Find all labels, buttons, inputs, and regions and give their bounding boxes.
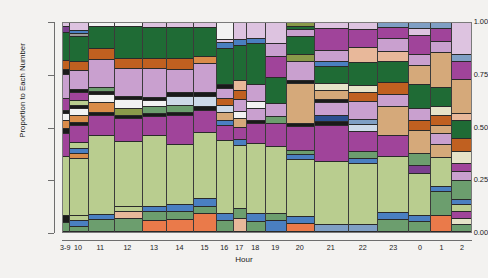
bar-segment <box>70 23 88 31</box>
bar-column[interactable] <box>194 23 217 232</box>
bar-segment <box>287 84 313 124</box>
bar-segment <box>452 164 471 172</box>
bar-segment <box>349 164 378 225</box>
bar-segment <box>431 116 451 126</box>
bar-segment <box>287 37 313 54</box>
bar-segment <box>167 70 192 94</box>
bar-segment <box>63 121 69 129</box>
bar-column[interactable] <box>266 23 287 232</box>
bar-segment <box>194 64 216 94</box>
x-tick-label: 0 <box>418 243 422 252</box>
bar-segment <box>266 214 286 221</box>
x-tick-label: 18 <box>251 243 259 252</box>
bar-segment <box>378 52 408 63</box>
bar-column[interactable] <box>349 23 379 232</box>
bar-column[interactable] <box>315 23 349 232</box>
bar-segment <box>234 23 247 40</box>
bar-segment <box>349 152 378 159</box>
bar-segment <box>452 205 471 212</box>
bar-segment <box>143 69 166 97</box>
bar-segment <box>378 157 408 213</box>
y-axis-title: Proportion to Each Number <box>18 6 27 176</box>
bar-segment <box>194 28 216 58</box>
bar-segment <box>431 29 451 42</box>
bar-segment <box>167 145 192 205</box>
bar-column[interactable] <box>217 23 234 232</box>
bar-segment <box>349 86 378 93</box>
bar-segment <box>63 157 69 216</box>
bar-segment <box>409 174 430 216</box>
bar-segment <box>431 158 451 187</box>
bar-segment <box>234 119 247 128</box>
bar-segment <box>409 36 430 55</box>
bar-segment <box>63 33 69 61</box>
bar-column[interactable] <box>234 23 248 232</box>
bar-segment <box>234 46 247 81</box>
bar-segment <box>115 109 142 116</box>
bar-segment <box>349 63 378 85</box>
bar-segment <box>266 104 286 117</box>
x-tick-label: 14 <box>175 243 183 252</box>
bar-segment <box>378 107 408 137</box>
bar-segment <box>247 222 265 232</box>
bar-column[interactable] <box>89 23 114 232</box>
bar-segment <box>247 44 265 85</box>
bar-column[interactable] <box>378 23 409 232</box>
bar-segment <box>167 116 192 144</box>
bar-column[interactable] <box>115 23 143 232</box>
bar-segment <box>349 125 378 133</box>
bar-column[interactable] <box>287 23 314 232</box>
bar-segment <box>115 219 142 232</box>
x-tick-label: 3-9 <box>60 243 70 252</box>
x-axis-title: Hour <box>0 255 488 264</box>
bar-segment <box>217 113 233 121</box>
bar-column[interactable] <box>63 23 70 232</box>
bar-column[interactable] <box>452 23 471 232</box>
bar-segment <box>63 114 69 121</box>
bar-segment <box>115 59 142 70</box>
bar-segment <box>70 71 88 90</box>
bar-segment <box>194 199 216 207</box>
bar-segment <box>63 216 69 223</box>
bar-segment <box>194 214 216 232</box>
bar-segment <box>315 51 348 63</box>
bar-segment <box>378 213 408 220</box>
bar-segment <box>349 132 378 152</box>
bar-segment <box>63 99 69 111</box>
bar-segment <box>89 220 113 232</box>
bar-column[interactable] <box>247 23 266 232</box>
bar-segment <box>287 127 313 150</box>
bar-segment <box>167 212 192 220</box>
bar-segment <box>115 119 142 142</box>
bar-segment <box>409 85 430 109</box>
bar-segment <box>287 160 313 217</box>
bar-segment <box>315 67 348 85</box>
bar-segment <box>247 102 265 109</box>
bar-segment <box>452 172 471 181</box>
bar-segment <box>167 59 192 70</box>
bar-segment <box>217 89 233 99</box>
bar-segment <box>378 95 408 107</box>
x-tick-label: 19 <box>271 243 279 252</box>
bar-column[interactable] <box>70 23 89 232</box>
bar-segment <box>217 214 233 221</box>
bar-segment <box>143 212 166 221</box>
bar-column[interactable] <box>409 23 431 232</box>
bar-column[interactable] <box>431 23 452 232</box>
bar-segment <box>452 23 471 55</box>
x-tick-label: 16 <box>220 243 228 252</box>
bar-segment <box>431 126 451 135</box>
bar-segment <box>452 121 471 139</box>
bar-column[interactable] <box>167 23 193 232</box>
bar-segment <box>409 66 430 85</box>
bar-segment <box>247 109 265 121</box>
bar-segment <box>349 30 378 48</box>
bar-segment <box>217 106 233 113</box>
bar-segment <box>70 126 88 142</box>
bar-segment <box>217 141 233 214</box>
bar-column[interactable] <box>143 23 167 232</box>
bar-segment <box>115 69 142 96</box>
bar-segment <box>266 78 286 104</box>
bar-segment <box>70 93 88 102</box>
x-tick-label: 2 <box>460 243 464 252</box>
